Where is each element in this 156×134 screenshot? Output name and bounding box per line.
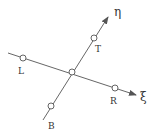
center-node [69,69,75,75]
node-L [20,55,26,61]
node-T [91,35,97,41]
label-T: T [95,44,101,54]
label-L: L [18,66,24,76]
label-R: R [110,96,117,106]
node-R [112,85,118,91]
xi-label: ξ [140,90,147,104]
label-B: B [48,121,55,131]
eta-label: η [114,5,121,19]
node-B [48,103,54,109]
stencil-diagram: L R T B ξ η [0,0,156,134]
